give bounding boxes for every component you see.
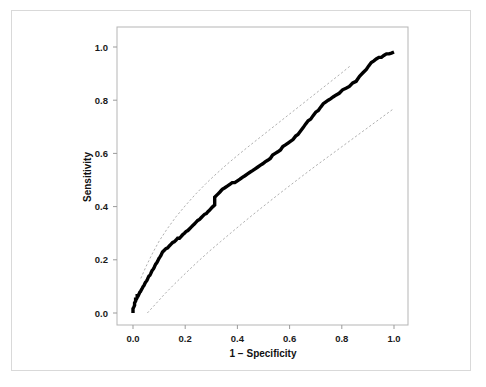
roc-curve-line [133, 52, 394, 313]
x-tick-label: 0.8 [335, 333, 348, 344]
y-tick-label: 0.8 [95, 95, 108, 106]
x-tick-label: 0.0 [126, 333, 139, 344]
x-tick-label: 1.0 [387, 333, 400, 344]
figure-page: 0.00.20.40.60.81.00.00.20.40.60.81.0 1 −… [0, 0, 486, 387]
confidence-band-line [147, 108, 394, 313]
roc-chart-svg: 0.00.20.40.60.81.00.00.20.40.60.81.0 1 −… [0, 0, 486, 387]
y-tick-label: 0.6 [95, 148, 108, 159]
y-axis-title: Sensitivity [82, 152, 93, 202]
y-tick-label: 0.4 [95, 201, 109, 212]
axis-labels: 0.00.20.40.60.81.00.00.20.40.60.81.0 [95, 42, 401, 345]
y-tick-label: 1.0 [95, 42, 108, 53]
x-tick-label: 0.2 [179, 333, 192, 344]
axis-titles: 1 − Specificity Sensitivity [82, 152, 297, 359]
y-tick-label: 0.2 [95, 254, 108, 265]
x-tick-label: 0.6 [283, 333, 296, 344]
confidence-band-line [141, 66, 350, 278]
axis-ticks [113, 47, 394, 329]
x-axis-title: 1 − Specificity [230, 348, 297, 359]
x-tick-label: 0.4 [231, 333, 245, 344]
roc-chart-figure: 0.00.20.40.60.81.00.00.20.40.60.81.0 1 −… [0, 0, 486, 387]
chart-series [133, 52, 394, 313]
y-tick-label: 0.0 [95, 308, 108, 319]
